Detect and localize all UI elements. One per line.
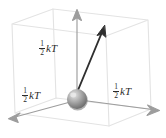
cube-edge-back-right	[148, 20, 151, 109]
right-axis-shaft	[80, 100, 152, 110]
fraction-numerator: 1	[22, 87, 28, 95]
fraction-numerator: 1	[113, 83, 119, 91]
fraction-one-half-vertical: 1 2	[39, 40, 45, 56]
fraction-numerator: 1	[39, 40, 45, 48]
figure-canvas	[0, 0, 166, 138]
velocity-vector-shaft	[76, 31, 103, 95]
fraction-denominator: 2	[22, 96, 28, 104]
cube-edge-front-right	[106, 36, 109, 126]
fraction-one-half-left: 1 2	[22, 87, 28, 103]
sphere-highlight	[70, 93, 76, 98]
label-right-axis: 1 2 kT	[113, 83, 131, 99]
fraction-denominator: 2	[113, 92, 119, 100]
label-left-axis: 1 2 kT	[22, 87, 40, 103]
particle-sphere	[67, 89, 88, 111]
cube-top-face-edges	[12, 9, 148, 36]
velocity-vector-arrow	[76, 26, 106, 96]
equipartition-figure: 1 2 kT 1 2 kT 1 2 kT	[0, 0, 166, 138]
label-symbol-kt: kT	[29, 90, 40, 101]
label-vertical-axis: 1 2 kT	[39, 40, 57, 56]
label-symbol-kt: kT	[46, 43, 57, 54]
label-symbol-kt: kT	[120, 86, 131, 97]
sphere-body	[67, 89, 87, 109]
fraction-denominator: 2	[39, 49, 45, 57]
fraction-one-half-right: 1 2	[113, 83, 119, 99]
cube-edge-front-left	[12, 24, 15, 113]
left-axis-arrowhead	[9, 113, 21, 122]
